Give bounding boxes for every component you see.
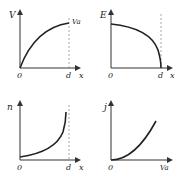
origin-label: 0 xyxy=(17,163,22,172)
d-label: d xyxy=(66,71,71,80)
panel-j-va: j 0 Va xyxy=(102,102,170,172)
x-label: Va xyxy=(160,164,169,172)
panel-v-x: V Va 0 d x xyxy=(9,10,84,80)
panel-n-x: n 0 d x xyxy=(7,102,84,172)
n-curve xyxy=(20,112,66,157)
j-curve xyxy=(111,121,156,160)
diagram-canvas: V Va 0 d x E 0 d x n 0 d x j 0 Va xyxy=(0,0,183,177)
y-label: j xyxy=(102,102,107,112)
d-label: d xyxy=(158,71,163,80)
origin-label: 0 xyxy=(108,71,113,80)
x-label: x xyxy=(79,71,84,80)
panel-e-x: E 0 d x xyxy=(99,10,175,80)
y-label: n xyxy=(7,102,13,112)
origin-label: 0 xyxy=(108,163,113,172)
v-curve xyxy=(20,23,69,68)
d-label: d xyxy=(66,163,71,172)
y-label: E xyxy=(99,10,107,20)
x-label: x xyxy=(79,163,84,172)
e-curve xyxy=(111,24,161,68)
x-label: x xyxy=(170,71,175,80)
origin-label: 0 xyxy=(17,71,22,80)
va-label: Va xyxy=(72,18,81,26)
y-label: V xyxy=(9,10,17,20)
